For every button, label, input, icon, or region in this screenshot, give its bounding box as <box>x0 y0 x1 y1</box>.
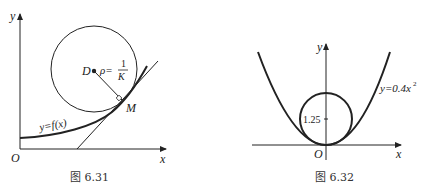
rho-numerator: 1 <box>121 58 126 69</box>
tick-label: 1.25 <box>303 114 321 125</box>
caption: 图 6.32 <box>315 171 354 184</box>
center-label: D <box>81 64 91 78</box>
origin-label: O <box>11 151 20 165</box>
x-axis-label: x <box>395 147 402 161</box>
rho-denominator: K <box>117 71 126 82</box>
parabola <box>258 52 390 145</box>
origin-label: O <box>314 147 323 161</box>
figure-6-31: y x O D ρ= 1 K M y=f(x) 图 6.31 <box>9 9 166 184</box>
center-point <box>92 69 96 73</box>
right-angle-mark <box>116 95 122 101</box>
x-axis-label: x <box>159 152 166 166</box>
y-axis-label: y <box>9 9 16 23</box>
figures-canvas: y x O D ρ= 1 K M y=f(x) 图 6.31 y x O 1.2… <box>0 0 428 193</box>
point-label: M <box>125 101 137 115</box>
rho-label: ρ= <box>99 64 113 76</box>
caption: 图 6.31 <box>70 171 109 184</box>
curve-exponent: 2 <box>413 80 417 88</box>
curve-label: y=0.4x <box>379 82 411 94</box>
y-axis-label: y <box>316 40 323 54</box>
figure-6-32: y x O 1.25 y=0.4x 2 图 6.32 <box>252 40 417 184</box>
